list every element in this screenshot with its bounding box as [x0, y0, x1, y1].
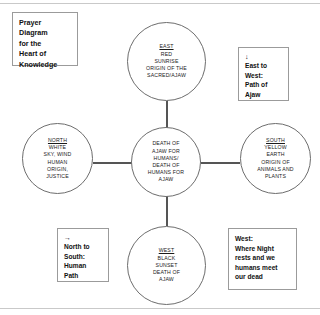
- node-east[interactable]: EASTRED SUNRISE ORIGIN OF THE SACRED/AJA…: [127, 22, 206, 101]
- annotation-west-note: West: Where Night rests and we humans me…: [228, 228, 297, 290]
- node-north-text: NORTHWHITE SKY, WIND HUMAN ORIGIN, JUSTI…: [38, 137, 78, 180]
- node-west-lines: BLACK SUNSET DEATH OF AJAW: [153, 255, 180, 283]
- node-south[interactable]: SOUTHYELLOW EARTH ORIGIN OF ANIMALS AND …: [240, 123, 311, 194]
- arrow-right-icon: →: [64, 234, 102, 242]
- connector-center-to-west: [166, 196, 168, 226]
- node-center[interactable]: DEATH OF AJAW FOR HUMANS/ DEATH OF HUMAN…: [131, 127, 201, 197]
- node-west-text: WESTBLACK SUNSET DEATH OF AJAW: [147, 247, 186, 283]
- annotation-east-to-west: ↓East to West: Path of Ajaw: [238, 47, 289, 101]
- node-west[interactable]: WESTBLACK SUNSET DEATH OF AJAW: [127, 226, 206, 305]
- prayer-diagram-page: EASTRED SUNRISE ORIGIN OF THE SACRED/AJA…: [0, 0, 320, 315]
- annotation-east-to-west-text: East to West: Path of Ajaw: [245, 62, 267, 98]
- page-border-top: [0, 3, 320, 4]
- node-south-heading: SOUTH: [266, 137, 285, 143]
- node-east-lines: RED SUNRISE ORIGIN OF THE SACRED/AJAW: [146, 51, 187, 79]
- node-center-text: DEATH OF AJAW FOR HUMANS/ DEATH OF HUMAN…: [142, 140, 190, 183]
- annotation-east-to-west-body: ↓East to West: Path of Ajaw: [239, 48, 288, 104]
- node-south-text: SOUTHYELLOW EARTH ORIGIN OF ANIMALS AND …: [251, 137, 300, 180]
- annotation-north-to-south: →North to South: Human Path: [57, 228, 109, 282]
- node-center-lines: DEATH OF AJAW FOR HUMANS/ DEATH OF HUMAN…: [148, 140, 184, 182]
- node-east-text: EASTRED SUNRISE ORIGIN OF THE SACRED/AJA…: [140, 43, 193, 79]
- title-text: Prayer Diagram for the Heart of Knowledg…: [13, 13, 77, 75]
- node-north-lines: WHITE SKY, WIND HUMAN ORIGIN, JUSTICE: [44, 144, 72, 179]
- connector-center-to-south: [201, 162, 240, 164]
- node-south-lines: YELLOW EARTH ORIGIN OF ANIMALS AND PLANT…: [257, 144, 294, 179]
- annotation-north-to-south-text: North to South: Human Path: [64, 243, 90, 279]
- annotation-north-to-south-body: →North to South: Human Path: [58, 229, 108, 285]
- title-box: Prayer Diagram for the Heart of Knowledg…: [12, 12, 78, 66]
- node-west-heading: WEST: [159, 247, 175, 253]
- annotation-west-note-text: West: Where Night rests and we humans me…: [229, 229, 296, 287]
- connector-north-to-center: [93, 162, 132, 164]
- page-border-bottom: [0, 308, 320, 309]
- arrow-down-icon: ↓: [245, 53, 282, 61]
- node-north[interactable]: NORTHWHITE SKY, WIND HUMAN ORIGIN, JUSTI…: [22, 123, 93, 194]
- node-north-heading: NORTH: [48, 137, 67, 143]
- node-east-heading: EAST: [159, 43, 173, 49]
